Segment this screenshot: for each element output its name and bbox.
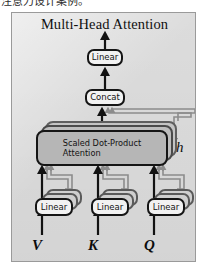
input-label-key: K — [88, 237, 98, 254]
caption-text: 注意力设计案例。 — [1, 0, 89, 8]
heads-count-label: h — [176, 139, 184, 156]
node-concat-label: Concat — [90, 93, 120, 102]
attention-label-line2: Attention — [63, 148, 101, 158]
input-label-value: V — [32, 237, 42, 254]
input-label-query: Q — [144, 237, 155, 254]
node-linear-query[interactable]: Linear — [147, 198, 185, 216]
node-linear-value-label: Linear — [41, 203, 67, 212]
node-linear-key-label: Linear — [97, 203, 123, 212]
page-caption-clipped: 注意力设计案例。 — [0, 0, 130, 9]
wire-attention-to-concat-gray-arrows — [108, 108, 112, 112]
attention-label-line1: Scaled Dot-Product — [63, 138, 141, 148]
node-linear-output-label: Linear — [92, 53, 118, 62]
node-linear-key[interactable]: Linear — [91, 198, 129, 216]
figure-canvas: 注意力设计案例。 Multi-Head Attention — [0, 0, 206, 270]
node-linear-query-label: Linear — [153, 203, 179, 212]
node-linear-value[interactable]: Linear — [35, 198, 73, 216]
multi-head-attention-figure: Multi-Head Attention — [11, 12, 196, 262]
figure-title: Multi-Head Attention — [12, 16, 196, 33]
node-linear-output[interactable]: Linear — [87, 49, 123, 66]
node-scaled-dot-product-attention[interactable]: Scaled Dot-Product Attention — [36, 130, 168, 166]
node-concat[interactable]: Concat — [85, 89, 125, 106]
